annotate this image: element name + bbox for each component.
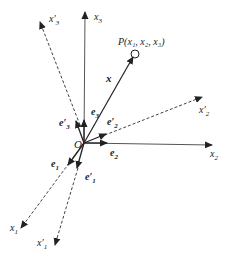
basis-e1-label: e1: [51, 158, 59, 172]
basis-e3-label: e3: [91, 106, 99, 120]
basis-e3-prime-label: e′3: [59, 117, 70, 131]
position-vector-label: x: [105, 72, 112, 84]
axis-x3-prime-label: x′3: [48, 13, 60, 27]
axis-x2-label: x2: [209, 148, 218, 162]
axis-x1-prime-label: x′1: [36, 237, 47, 251]
point-p-marker: [131, 50, 139, 58]
axis-x3-prime: [40, 22, 80, 125]
position-vector-x: [84, 57, 133, 143]
axis-x1-label: x1: [9, 222, 18, 236]
axis-x2-prime: [100, 97, 202, 137]
diagram-svg: O P(x₁, x₂, x₃) x x3 x2 x1 x′3 x′2 x′1 e…: [0, 0, 229, 261]
axis-x3-label: x3: [93, 11, 102, 25]
basis-e2-label: e2: [110, 147, 118, 161]
basis-e2-prime: [84, 134, 106, 143]
origin-label: O: [74, 138, 82, 150]
coordinate-rotation-diagram: O P(x₁, x₂, x₃) x x3 x2 x1 x′3 x′2 x′1 e…: [0, 0, 229, 261]
basis-e1-prime-label: e′1: [85, 171, 96, 185]
point-p-label: P(x₁, x₂, x₃): [117, 36, 165, 48]
axis-x2-prime-label: x′2: [198, 104, 210, 118]
basis-e2-prime-label: e′2: [107, 116, 118, 130]
axis-x1-prime: [55, 168, 78, 245]
